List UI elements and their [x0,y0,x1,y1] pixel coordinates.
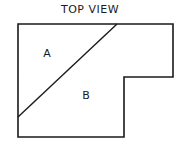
region-label-b: B [82,90,90,102]
l-shaped-outline [18,24,173,137]
top-view-diagram: TOP VIEW A B [0,0,180,143]
region-label-a: A [43,48,51,60]
diagram-drawing [0,0,180,143]
diagonal-divider-line [18,24,117,117]
